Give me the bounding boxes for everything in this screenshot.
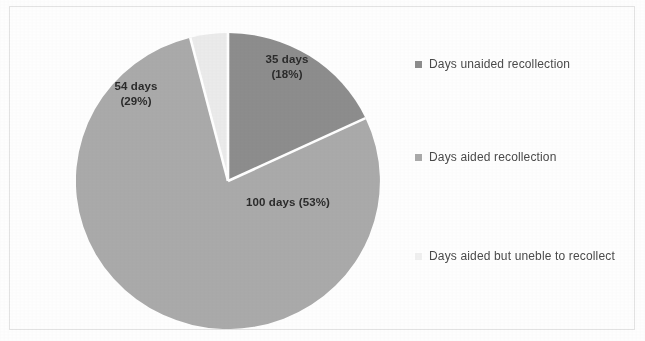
slice-label-aided-unable-to-recollect: 54 days (29%)	[90, 79, 182, 109]
square-marker-icon	[415, 61, 422, 68]
square-marker-icon	[415, 154, 422, 161]
pie-chart-figure: 35 days (18%) 100 days (53%) 54 days (29…	[0, 0, 645, 341]
legend-label: Days aided but uneble to recollect	[429, 248, 615, 265]
legend-item-aided-unable-to-recollect[interactable]: Days aided but uneble to recollect	[415, 248, 630, 265]
slice-label-aided-recollection: 100 days (53%)	[214, 195, 362, 210]
legend-item-unaided-recollection[interactable]: Days unaided recollection	[415, 56, 630, 73]
legend-item-aided-recollection[interactable]: Days aided recollection	[415, 149, 630, 166]
legend-label: Days aided recollection	[429, 149, 557, 166]
slice-label-unaided-recollection: 35 days (18%)	[241, 52, 333, 82]
pie-svg	[76, 33, 380, 329]
legend-label: Days unaided recollection	[429, 56, 570, 73]
square-marker-icon	[415, 253, 422, 260]
pie-chart	[76, 33, 380, 329]
